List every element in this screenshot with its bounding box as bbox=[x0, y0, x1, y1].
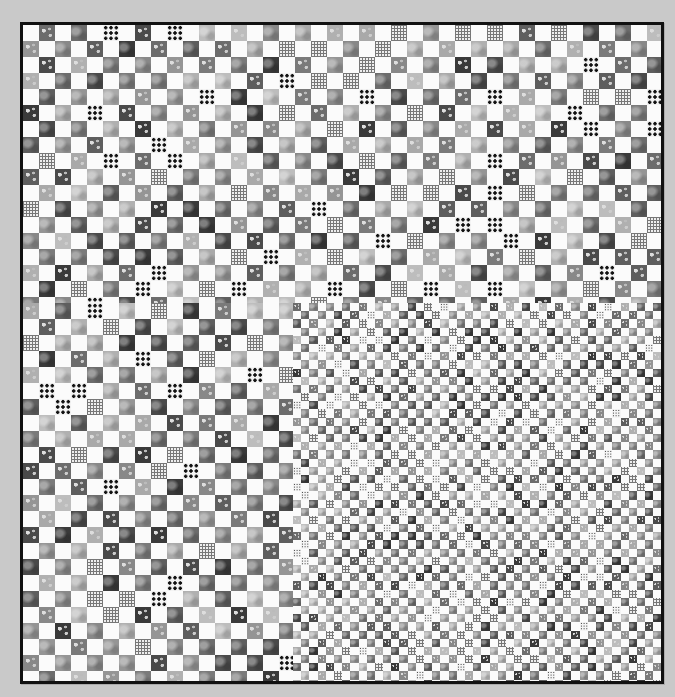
patch bbox=[457, 491, 465, 499]
patch bbox=[629, 328, 637, 336]
patch bbox=[55, 623, 71, 639]
patch bbox=[383, 598, 391, 606]
patch bbox=[301, 311, 309, 319]
patch bbox=[23, 655, 39, 671]
patch bbox=[481, 647, 489, 655]
patch bbox=[522, 426, 530, 434]
patch bbox=[555, 385, 563, 393]
patch bbox=[23, 25, 39, 41]
patch bbox=[167, 185, 183, 201]
patch bbox=[342, 622, 350, 630]
patch bbox=[473, 524, 481, 532]
patch bbox=[514, 581, 522, 589]
patch bbox=[580, 459, 588, 467]
patch bbox=[506, 622, 514, 630]
patch bbox=[506, 573, 514, 581]
patch bbox=[530, 336, 538, 344]
patch bbox=[293, 369, 301, 377]
patch bbox=[621, 516, 629, 524]
patch bbox=[522, 508, 530, 516]
patch bbox=[23, 169, 39, 185]
patch bbox=[343, 25, 359, 41]
patch bbox=[391, 663, 399, 671]
patch bbox=[424, 328, 432, 336]
patch bbox=[481, 614, 489, 622]
patch bbox=[473, 385, 481, 393]
patch bbox=[653, 385, 661, 393]
patch bbox=[645, 393, 653, 401]
patch bbox=[563, 483, 571, 491]
patch bbox=[498, 369, 506, 377]
patch bbox=[350, 500, 358, 508]
patch bbox=[309, 500, 317, 508]
patch bbox=[71, 335, 87, 351]
patch bbox=[334, 557, 342, 565]
patch bbox=[408, 303, 416, 311]
patch bbox=[583, 105, 599, 121]
patch bbox=[629, 401, 637, 409]
patch bbox=[263, 121, 279, 137]
patch bbox=[407, 185, 423, 201]
patch bbox=[416, 385, 424, 393]
patch bbox=[383, 409, 391, 417]
patch bbox=[350, 328, 358, 336]
patch bbox=[653, 524, 661, 532]
patch bbox=[135, 591, 151, 607]
patch bbox=[279, 233, 295, 249]
patch bbox=[309, 581, 317, 589]
patch bbox=[621, 614, 629, 622]
patch bbox=[653, 401, 661, 409]
patch bbox=[631, 25, 647, 41]
patch bbox=[473, 549, 481, 557]
patch bbox=[604, 352, 612, 360]
patch bbox=[547, 606, 555, 614]
patch bbox=[471, 185, 487, 201]
patch bbox=[359, 450, 367, 458]
patch bbox=[416, 606, 424, 614]
patch bbox=[183, 303, 199, 319]
patch bbox=[498, 491, 506, 499]
patch bbox=[293, 352, 301, 360]
patch bbox=[645, 352, 653, 360]
patch bbox=[367, 549, 375, 557]
patch bbox=[563, 409, 571, 417]
patch bbox=[465, 508, 473, 516]
patch bbox=[612, 573, 620, 581]
patch bbox=[334, 459, 342, 467]
patch bbox=[449, 524, 457, 532]
patch bbox=[350, 581, 358, 589]
patch bbox=[621, 311, 629, 319]
patch bbox=[87, 559, 103, 575]
patch bbox=[326, 598, 334, 606]
patch bbox=[103, 383, 119, 399]
patch bbox=[487, 41, 503, 57]
patch bbox=[183, 319, 199, 335]
patch bbox=[449, 393, 457, 401]
patch bbox=[571, 516, 579, 524]
patch bbox=[199, 639, 215, 655]
patch bbox=[301, 590, 309, 598]
patch bbox=[399, 590, 407, 598]
patch bbox=[342, 450, 350, 458]
patch bbox=[629, 442, 637, 450]
patch bbox=[407, 121, 423, 137]
patch bbox=[23, 153, 39, 169]
patch bbox=[547, 311, 555, 319]
patch bbox=[637, 426, 645, 434]
patch bbox=[449, 434, 457, 442]
patch bbox=[416, 303, 424, 311]
patch bbox=[309, 409, 317, 417]
patch bbox=[55, 655, 71, 671]
patch bbox=[604, 360, 612, 368]
patch bbox=[473, 352, 481, 360]
patch bbox=[514, 647, 522, 655]
patch bbox=[465, 426, 473, 434]
patch bbox=[571, 311, 579, 319]
patch bbox=[367, 467, 375, 475]
patch bbox=[522, 614, 530, 622]
patch bbox=[653, 671, 661, 679]
patch bbox=[183, 89, 199, 105]
patch bbox=[183, 121, 199, 137]
patch bbox=[342, 369, 350, 377]
patch bbox=[465, 549, 473, 557]
